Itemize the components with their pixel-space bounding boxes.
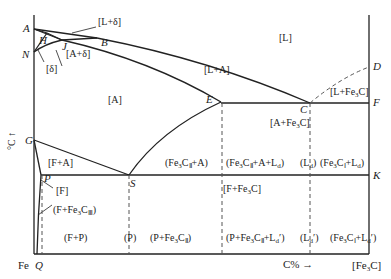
region-f-a: [F+A] <box>48 157 73 168</box>
region-ld: (Ld) <box>300 157 316 168</box>
x-axis-label: C% → <box>283 259 313 270</box>
line-gp <box>34 140 41 175</box>
region-f-fe3ciii: (F+Fe3CⅢ) <box>53 204 96 215</box>
region-fe3cii-a-ld: (Fe3CⅡ+A+Ld) <box>226 157 284 168</box>
point-n: N <box>22 49 29 60</box>
region-fe3ci-ld: (Fe3CⅠ+Ld) <box>320 157 364 168</box>
region-l-fe3c: [L+Fe3C] <box>330 86 369 97</box>
x-left-end-label: Fe <box>18 260 29 271</box>
point-k: K <box>373 170 380 181</box>
point-b: B <box>101 37 108 48</box>
point-p: P <box>44 173 51 184</box>
region-ldp: (Ld′) <box>300 232 318 243</box>
point-g: G <box>25 135 33 146</box>
liquidus-line-abc <box>34 29 310 103</box>
region-p-fe3cii: (P+Fe3CⅡ) <box>150 232 191 243</box>
region-delta: [δ] <box>46 63 57 74</box>
region-fe3ci-ldp: (Fe3CⅠ+Ld′) <box>330 232 376 243</box>
region-a-delta: [A+δ] <box>66 48 90 59</box>
region-l: [L] <box>279 32 292 43</box>
region-fe3cii-a: (Fe3CⅡ+A) <box>165 157 208 168</box>
liquidus-line-cd <box>310 67 369 103</box>
point-h: H <box>39 35 47 46</box>
region-l-delta: [L+δ] <box>98 16 121 27</box>
region-l-a: [L+A] <box>204 64 230 75</box>
point-q: Q <box>35 260 43 271</box>
x-right-end-label: [Fe3C] <box>352 260 381 271</box>
leader-delta <box>38 50 44 62</box>
point-s: S <box>130 178 136 189</box>
region-f-fe3c: [F+Fe3C] <box>223 183 261 194</box>
leader-l-delta <box>72 27 96 33</box>
region-f: [F] <box>56 185 68 196</box>
point-d: D <box>373 61 381 72</box>
point-f: F <box>373 97 380 108</box>
y-axis-label: °C ↑ <box>6 132 17 150</box>
region-p: (P) <box>124 232 136 243</box>
region-p-fe3cii-ldp: (P+Fe3CⅡ+Ld′) <box>226 232 284 243</box>
point-e: E <box>206 94 213 105</box>
region-f-p: (F+P) <box>64 232 87 243</box>
region-a-fe3c: [A+Fe3C] <box>270 117 310 128</box>
leader-f-fe3ciii <box>38 205 52 215</box>
region-a: [A] <box>108 94 122 105</box>
point-a: A <box>23 23 30 34</box>
point-c: C <box>300 104 307 115</box>
